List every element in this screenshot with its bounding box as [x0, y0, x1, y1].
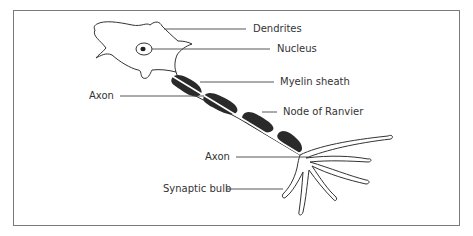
label-axon-lower: Axon	[205, 151, 230, 163]
neuron-diagram	[0, 0, 473, 236]
label-node-of-ranvier: Node of Ranvier	[283, 106, 363, 118]
label-myelin-sheath: Myelin sheath	[280, 76, 350, 88]
label-axon-upper: Axon	[89, 90, 114, 102]
nucleus-core	[140, 47, 145, 51]
label-synaptic-bulb: Synaptic bulb	[163, 183, 231, 195]
label-nucleus: Nucleus	[277, 43, 317, 55]
label-dendrites: Dendrites	[253, 23, 302, 35]
